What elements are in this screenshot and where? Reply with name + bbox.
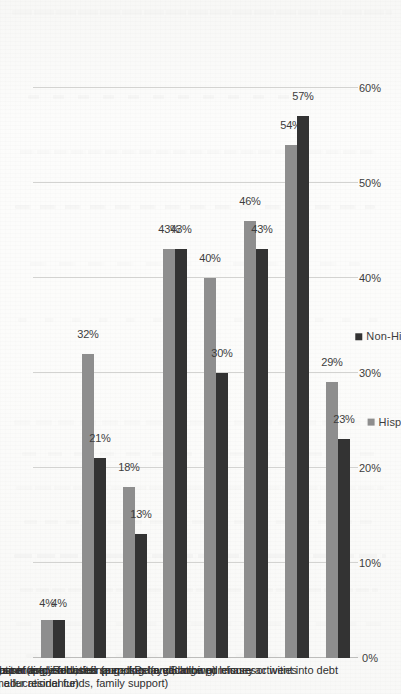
bar-value-label: 23% [333,414,354,426]
bar-value-label: 4% [52,597,68,609]
category-group: 29%23% [317,88,358,658]
bar-hispanic: 29% [326,88,338,658]
category-group: 46%43% [236,88,277,658]
bar-value-label: 43% [170,224,191,236]
bar-non-hispanic: 57% [297,88,309,658]
bar-hispanic: 40% [204,88,216,658]
bar-value-label: 21% [89,433,110,445]
category-group: 4%4% [33,88,74,658]
value-axis-tick-label: 30% [357,367,383,379]
bar-hispanic: 54% [285,88,297,658]
bar-hispanic: 4% [41,88,53,658]
bar-hispanic: 18% [123,88,135,658]
bar-hispanic: 46% [244,88,256,658]
bar-fill [135,535,147,659]
bar-fill [338,440,350,659]
legend-item-hispanic[interactable]: Hispanic [368,416,401,428]
plot-area: 4%4%32%21%18%13%43%43%40%30%46%43%54%57%… [33,88,358,658]
bar-value-label: 13% [130,509,151,521]
category-group: 40%30% [196,88,237,658]
rotated-chart-wrapper: 4%4%32%21%18%13%43%43%40%30%46%43%54%57%… [0,0,401,694]
bar-value-label: 43% [252,224,273,236]
category-axis-label-line: Borrowed money or went into debt [170,664,338,677]
bar-fill [94,459,106,659]
bar-fill [204,278,216,658]
bar-fill [297,117,309,659]
bar-non-hispanic: 30% [216,88,228,658]
bar-non-hispanic: 43% [175,88,187,658]
legend-item-non-hispanic[interactable]: Non-Hispanic [355,331,401,343]
bar-non-hispanic: 21% [94,88,106,658]
bar-non-hispanic: 13% [135,88,147,658]
bar-value-label: 57% [292,91,313,103]
category-group: 18%13% [114,88,155,658]
square-marker-gray-icon [368,418,375,425]
bar-fill [175,250,187,659]
value-axis-tick-label: 40% [357,272,383,284]
legend-item-label: Non-Hispanic [366,331,401,343]
category-axis-label-line: retirement, educational funds, family su… [0,677,175,690]
bar-hispanic: 43% [163,88,175,658]
bar-fill [285,145,297,658]
bar-fill [256,250,268,659]
category-group: 43%43% [155,88,196,658]
bar-fill [53,620,65,658]
square-marker-dark-icon [355,333,362,340]
category-group: 54%57% [277,88,318,658]
bar-fill [216,373,228,658]
value-axis-tick-label: 50% [357,177,383,189]
legend-item-label: Hispanic [379,416,401,428]
grouped-bar-chart: 4%4%32%21%18%13%43%43%40%30%46%43%54%57%… [0,0,401,694]
value-axis-tick-label: 0% [357,652,383,664]
chart-legend: HispanicNon-Hispanic [388,88,401,658]
bar-fill [82,354,94,658]
category-axis: Filed for bankruptcyUnable to cover the … [33,658,358,694]
bar-fill [41,620,53,658]
bar-fill [163,250,175,659]
value-axis-tick-label: 20% [357,462,383,474]
bar-hispanic: 32% [82,88,94,658]
category-group: 32%21% [74,88,115,658]
bar-non-hispanic: 43% [256,88,268,658]
bar-non-hispanic: 4% [53,88,65,658]
value-axis-tick-label: 10% [357,557,383,569]
value-axis-tick-label: 60% [357,82,383,94]
bar-fill [244,221,256,658]
bar-value-label: 30% [211,347,232,359]
bar-non-hispanic: 23% [338,88,350,658]
